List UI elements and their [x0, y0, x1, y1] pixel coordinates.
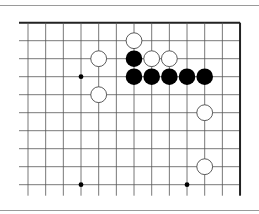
black-stone [126, 68, 143, 85]
star-point [79, 74, 84, 79]
white-stone [144, 51, 160, 67]
black-stone [196, 68, 213, 85]
black-stone [126, 50, 143, 67]
black-stone [161, 68, 178, 85]
white-stone [161, 51, 177, 67]
black-stone [143, 68, 160, 85]
white-stone [197, 105, 213, 121]
white-stone [91, 87, 107, 103]
black-stone [179, 68, 196, 85]
white-stone [197, 159, 213, 175]
star-point [79, 182, 84, 187]
white-stone [91, 51, 107, 67]
white-stone [126, 33, 142, 49]
go-board [0, 0, 259, 214]
star-point [185, 182, 190, 187]
